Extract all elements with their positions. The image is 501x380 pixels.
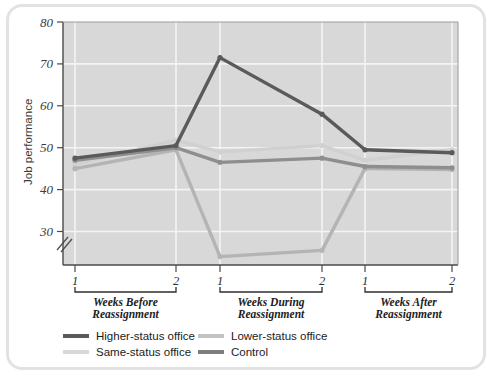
y-axis-title: Job performance xyxy=(22,99,34,185)
group-label-line2: Reassignment xyxy=(374,308,442,321)
y-axis-ticks: 304050607080 xyxy=(39,15,63,239)
legend-label: Control xyxy=(231,346,268,358)
data-point xyxy=(319,143,324,148)
line-chart-svg: 304050607080 Job performance 121212 Week… xyxy=(0,0,501,380)
data-point xyxy=(449,165,454,170)
x-axis-ticks: 121212 xyxy=(72,265,455,288)
legend-item[interactable]: Control xyxy=(198,346,268,358)
y-tick-label: 30 xyxy=(39,224,54,239)
plot-area-background xyxy=(63,22,458,265)
group-bracket xyxy=(365,287,452,292)
group-bracket xyxy=(220,287,322,292)
x-tick-label: 2 xyxy=(173,274,179,288)
y-tick-label: 80 xyxy=(40,15,54,30)
x-tick-label: 1 xyxy=(362,274,368,288)
data-point xyxy=(72,156,77,161)
data-point xyxy=(319,248,324,253)
x-tick-label: 1 xyxy=(217,274,223,288)
y-tick-label: 60 xyxy=(40,98,54,113)
legend-item[interactable]: Higher-status office xyxy=(63,330,195,342)
x-tick-label: 2 xyxy=(449,274,455,288)
data-point xyxy=(319,156,324,161)
x-tick-label: 1 xyxy=(72,274,78,288)
legend-item[interactable]: Lower-status office xyxy=(198,330,327,342)
data-point xyxy=(362,147,367,152)
data-point xyxy=(362,164,367,169)
chart-legend: Higher-status officeLower-status officeS… xyxy=(63,330,327,358)
y-tick-label: 50 xyxy=(40,140,54,155)
legend-label: Higher-status office xyxy=(96,330,195,342)
data-point xyxy=(72,166,77,171)
x-tick-label: 2 xyxy=(319,274,325,288)
x-axis-group-labels: Weeks BeforeReassignmentWeeks DuringReas… xyxy=(75,287,452,321)
data-point xyxy=(173,143,178,148)
legend-label: Same-status office xyxy=(96,346,191,358)
legend-label: Lower-status office xyxy=(231,330,327,342)
data-point xyxy=(217,160,222,165)
y-tick-label: 70 xyxy=(40,56,54,71)
group-label-line2: Reassignment xyxy=(91,308,159,321)
data-point xyxy=(362,158,367,163)
data-point xyxy=(217,254,222,259)
group-bracket xyxy=(75,287,176,292)
data-point xyxy=(217,149,222,154)
data-point xyxy=(217,55,222,60)
chart-figure: 304050607080 Job performance 121212 Week… xyxy=(0,0,501,380)
data-point xyxy=(319,112,324,117)
y-tick-label: 40 xyxy=(40,182,54,197)
series-segment xyxy=(365,167,452,168)
group-label-line2: Reassignment xyxy=(237,308,305,321)
data-point xyxy=(449,150,454,155)
legend-item[interactable]: Same-status office xyxy=(63,346,191,358)
